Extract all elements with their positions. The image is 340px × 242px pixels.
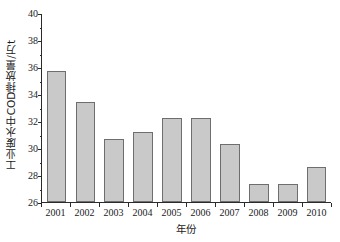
- y-axis-tick-label: 30: [28, 144, 38, 154]
- y-axis-tick-label: 38: [28, 36, 38, 46]
- bar[interactable]: [76, 102, 96, 202]
- y-axis-tick-label: 32: [28, 117, 38, 127]
- y-axis-tick-minor: [40, 109, 43, 110]
- bar-slot: [71, 14, 100, 202]
- y-axis-tick-minor: [40, 28, 43, 29]
- y-axis-tick-major: [38, 149, 42, 150]
- plot-area: [41, 14, 331, 203]
- y-axis-tick-major: [38, 14, 42, 15]
- x-axis-tick-label: 2003: [99, 206, 128, 222]
- y-axis-tick-minor: [40, 190, 43, 191]
- x-axis-tick-label: 2010: [302, 206, 331, 222]
- x-axis-tick-label: 2002: [70, 206, 99, 222]
- bar[interactable]: [191, 118, 211, 202]
- y-axis-tick-label: 36: [28, 63, 38, 73]
- y-axis-tick-minor: [40, 55, 43, 56]
- x-axis-tick-label: 2005: [157, 206, 186, 222]
- y-axis-tick-minor: [40, 82, 43, 83]
- bar-slot: [129, 14, 158, 202]
- bar-slot: [187, 14, 216, 202]
- y-axis-tick-minor: [40, 163, 43, 164]
- bar-slot: [158, 14, 187, 202]
- bar-slot: [215, 14, 244, 202]
- y-axis-tick-label: 28: [28, 171, 38, 181]
- bar-slot: [244, 14, 273, 202]
- x-axis-tick-labels: 2001200220032004200520062007200820092010: [41, 206, 331, 222]
- bar[interactable]: [278, 184, 298, 202]
- bar[interactable]: [249, 184, 269, 202]
- x-axis-tick-label: 2009: [273, 206, 302, 222]
- bar-slot: [302, 14, 331, 202]
- x-axis-tick-label: 2007: [215, 206, 244, 222]
- y-axis-tick-labels: 2628303234363840: [18, 0, 40, 242]
- y-axis-title: 工业废水中COD排放量/万t: [0, 0, 20, 210]
- bar[interactable]: [220, 144, 240, 202]
- y-axis-tick-major: [38, 41, 42, 42]
- bar[interactable]: [162, 118, 182, 202]
- x-axis-tick-label: 2001: [41, 206, 70, 222]
- x-axis-tick-label: 2006: [186, 206, 215, 222]
- bar[interactable]: [307, 167, 327, 202]
- y-axis-tick-label: 26: [28, 198, 38, 208]
- y-axis-tick-label: 34: [28, 90, 38, 100]
- x-axis-title: 年份: [41, 221, 331, 236]
- bar-slot: [100, 14, 129, 202]
- bar[interactable]: [47, 71, 67, 202]
- x-axis-tick-label: 2004: [128, 206, 157, 222]
- bar-series: [42, 14, 331, 202]
- x-axis-tick: [331, 203, 332, 207]
- x-axis-tick-label: 2008: [244, 206, 273, 222]
- y-axis-tick-major: [38, 68, 42, 69]
- y-axis-tick-major: [38, 95, 42, 96]
- bar[interactable]: [133, 132, 153, 202]
- bar-slot: [42, 14, 71, 202]
- y-axis-tick-label: 40: [28, 9, 38, 19]
- y-axis-tick-minor: [40, 136, 43, 137]
- bar-slot: [273, 14, 302, 202]
- y-axis-title-text: 工业废水中COD排放量/万t: [3, 40, 18, 170]
- bar-chart-figure: 工业废水中COD排放量/万t 2628303234363840 20012002…: [0, 0, 340, 242]
- bar[interactable]: [104, 139, 124, 202]
- y-axis-tick-major: [38, 176, 42, 177]
- y-axis-tick-major: [38, 122, 42, 123]
